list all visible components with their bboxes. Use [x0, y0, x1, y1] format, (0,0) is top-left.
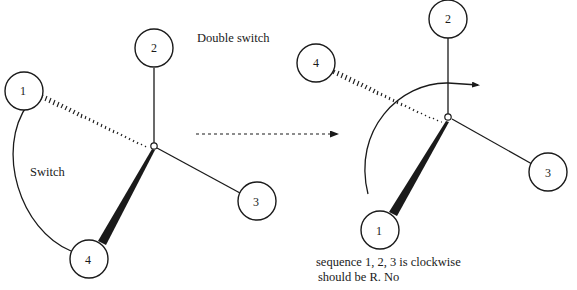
right-atom-4: 4: [297, 44, 335, 82]
right-carbon-center: [445, 114, 451, 120]
atom-label: 3: [545, 166, 551, 180]
right-atom-1: 1: [361, 211, 399, 249]
right-atom-2: 2: [429, 0, 467, 38]
left-molecule: 1 2 3 4 Switch: [5, 29, 276, 278]
atom-label: 3: [253, 195, 259, 209]
caption-line-2: should be R. No: [318, 270, 399, 284]
hashed-bond-left-c-1: [41, 95, 146, 147]
left-atom-4: 4: [70, 240, 108, 278]
wedge-bond-left-c-4: [98, 149, 155, 245]
bond-left-c-3: [157, 148, 240, 193]
atom-label: 4: [313, 56, 319, 70]
right-atom-3: 3: [529, 153, 567, 191]
left-atom-3: 3: [238, 182, 276, 220]
hashed-bond-right-c-4: [333, 70, 442, 122]
atom-label: 1: [20, 84, 26, 98]
left-carbon-center: [151, 143, 157, 149]
diagram-title: Double switch: [197, 31, 270, 45]
switch-label: Switch: [30, 165, 65, 179]
atom-label: 2: [445, 12, 451, 26]
left-atom-1: 1: [5, 72, 43, 110]
clockwise-arc-arrow-icon: [365, 83, 478, 194]
atom-label: 4: [85, 253, 91, 267]
right-molecule: 1 2 3 4: [297, 0, 567, 249]
bond-right-c-3: [452, 119, 532, 164]
left-atom-2: 2: [135, 29, 173, 67]
wedge-bond-right-c-1: [389, 121, 449, 216]
caption-line-1: sequence 1, 2, 3 is clockwise: [316, 255, 461, 269]
stereochemistry-diagram: 1 2 3 4 Switch Double switch: [0, 0, 577, 290]
atom-label: 1: [376, 224, 382, 238]
atom-label: 2: [151, 41, 157, 55]
